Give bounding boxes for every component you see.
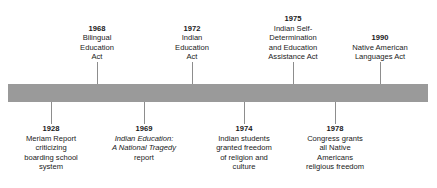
event-desc-line: Native American — [324, 43, 436, 53]
timeline-tick-1990 — [380, 62, 381, 84]
timeline-tick-1975 — [293, 62, 294, 84]
timeline-tick-1978 — [335, 102, 336, 124]
timeline-tick-1968 — [97, 62, 98, 84]
event-desc-line: report — [88, 153, 200, 163]
event-desc-line: A National Tragedy — [88, 143, 200, 153]
timeline-event-1972: 1972IndianEducationAct — [136, 24, 248, 62]
event-desc-line: Americans — [279, 153, 391, 163]
event-desc-line: Languages Act — [324, 52, 436, 62]
event-desc-line: Education — [136, 43, 248, 53]
event-desc-line: Act — [136, 52, 248, 62]
event-desc-line: Indian — [136, 33, 248, 43]
timeline-bar — [8, 84, 428, 102]
timeline-tick-1928 — [51, 102, 52, 124]
timeline-event-1978: 1978Congress grantsall NativeAmericansre… — [279, 124, 391, 172]
timeline-tick-1969 — [144, 102, 145, 124]
event-year: 1990 — [324, 33, 436, 43]
timeline-tick-1972 — [192, 62, 193, 84]
event-desc-line: all Native — [279, 143, 391, 153]
timeline-figure: 1968BilingualEducationAct1972IndianEduca… — [0, 0, 437, 188]
event-year: 1972 — [136, 24, 248, 34]
event-year: 1969 — [88, 124, 200, 134]
event-desc-line: system — [0, 162, 107, 172]
event-desc-line: Indian Education: — [88, 134, 200, 144]
timeline-event-1990: 1990Native AmericanLanguages Act — [324, 33, 436, 62]
event-year: 1978 — [279, 124, 391, 134]
event-year: 1975 — [237, 14, 349, 24]
event-desc-line: religious freedom — [279, 162, 391, 172]
timeline-event-1969: 1969Indian Education:A National Tragedyr… — [88, 124, 200, 162]
timeline-tick-1974 — [244, 102, 245, 124]
event-desc-line: Indian Self- — [237, 24, 349, 34]
event-desc-line: Congress grants — [279, 134, 391, 144]
